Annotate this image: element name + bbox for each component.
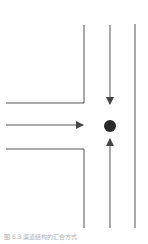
lower-left-wall: [6, 149, 84, 228]
figure-caption: 图 6.3 渠道结构的汇合方式: [4, 232, 77, 241]
convergence-diagram: [0, 0, 148, 244]
upper-left-wall: [6, 25, 84, 103]
convergence-dot-icon: [104, 120, 116, 132]
